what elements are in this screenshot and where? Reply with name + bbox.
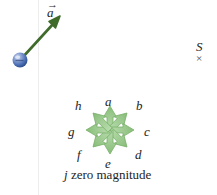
vector-a-origin-ball	[13, 53, 28, 68]
star-label-h: h	[75, 99, 82, 112]
star-label-c: c	[144, 125, 150, 138]
star-label-a: a	[105, 95, 112, 108]
star-label-f: f	[77, 148, 81, 161]
zero-magnitude-caption: j zero magnitude	[64, 167, 151, 183]
vector-a-label: → a	[47, 6, 54, 19]
star-label-b: b	[136, 99, 143, 112]
side-cross-icon: ×	[196, 53, 202, 64]
vector-a-arrow	[22, 16, 60, 58]
physics-vector-figure: → a a b c d e f g h j zero magnitude S ×	[0, 0, 217, 195]
caption-text: zero magnitude	[71, 167, 152, 182]
star-label-d: d	[135, 148, 142, 161]
star-label-g: g	[68, 125, 75, 138]
star-arrow-cluster	[86, 106, 134, 154]
vector-arrow-accent-icon: →	[47, 0, 58, 10]
